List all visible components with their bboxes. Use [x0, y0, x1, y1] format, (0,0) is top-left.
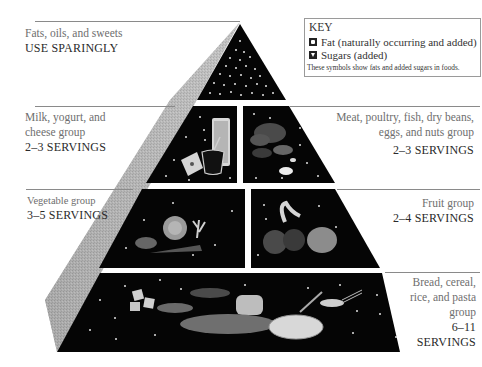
lettuce-icon: [163, 216, 187, 240]
label-vegetable: Vegetable group 3–5 SERVINGS: [27, 193, 108, 223]
rule-fruit: [337, 189, 480, 190]
key-item-sugar: Sugars (added): [309, 49, 387, 61]
label-grains: Bread, cereal, rice, and pasta group 6–1…: [410, 275, 476, 350]
label-meat-line1: Meat, poultry, fish, dry beans,: [336, 110, 474, 125]
label-grains-servings-num: 6–11: [410, 320, 476, 335]
label-fruit: Fruit group 2–4 SERVINGS: [393, 196, 474, 226]
tier-grains: [57, 273, 400, 352]
food-pyramid-figure: Fats, oils, and sweets USE SPARINGLY Mil…: [0, 0, 482, 367]
sugar-triangle-icon: [309, 51, 317, 59]
label-dairy-line1: Milk, yogurt, and: [25, 110, 106, 125]
key-item-fat: Fat (naturally occurring and added): [309, 36, 477, 48]
label-fats: Fats, oils, and sweets USE SPARINGLY: [25, 26, 122, 56]
label-grains-servings-word: SERVINGS: [410, 335, 476, 350]
baguette-icon: [180, 314, 276, 334]
key-note: These symbols show fats and added sugars…: [307, 63, 460, 72]
label-grains-line2: rice, and pasta: [410, 290, 476, 305]
label-dairy-servings: 2–3 SERVINGS: [25, 140, 106, 155]
fish-icon: [273, 145, 293, 155]
rule-fats: [35, 21, 240, 22]
label-vegetable-servings: 3–5 SERVINGS: [27, 208, 108, 223]
label-fruit-name: Fruit group: [393, 196, 474, 211]
key-legend: KEY Fat (naturally occurring and added) …: [304, 18, 481, 77]
key-item-fat-label: Fat (naturally occurring and added): [321, 36, 477, 48]
key-item-sugar-label: Sugars (added): [321, 49, 387, 61]
beans-icon: [252, 148, 272, 158]
tier-meat: [243, 106, 335, 183]
label-fruit-servings: 2–4 SERVINGS: [393, 211, 474, 226]
bread-slice-icon: [236, 295, 263, 315]
key-title: KEY: [309, 21, 333, 33]
label-dairy: Milk, yogurt, and cheese group 2–3 SERVI…: [25, 110, 106, 155]
grapes-icon: [307, 227, 337, 253]
rule-dairy: [35, 106, 175, 107]
potato-icon: [135, 237, 157, 249]
label-fats-servings: USE SPARINGLY: [25, 41, 122, 56]
label-grains-line3: group: [410, 305, 476, 320]
tier-fruit: [251, 189, 380, 268]
label-meat-servings: 2–3 SERVINGS: [336, 143, 474, 158]
fat-square-icon: [309, 38, 317, 46]
label-vegetable-name: Vegetable group: [27, 193, 108, 208]
label-meat-line2: eggs, and nuts group: [336, 125, 474, 140]
rule-grains: [385, 272, 480, 273]
label-meat: Meat, poultry, fish, dry beans, eggs, an…: [336, 110, 474, 158]
label-grains-line1: Bread, cereal,: [410, 275, 476, 290]
label-dairy-line2: cheese group: [25, 125, 106, 140]
rule-meat: [290, 106, 480, 107]
rule-vegetable: [26, 189, 133, 190]
label-fats-name: Fats, oils, and sweets: [25, 26, 122, 41]
